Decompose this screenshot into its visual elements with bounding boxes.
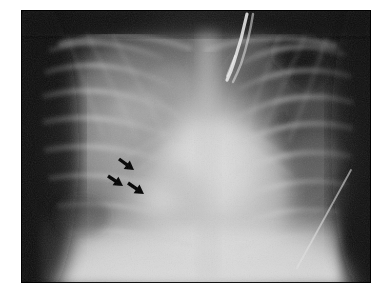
- chest-radiograph-image: [21, 10, 371, 283]
- figure-root: [0, 0, 389, 298]
- page-margin-bottom: [0, 283, 389, 298]
- page-margin-left: [0, 0, 21, 298]
- page-margin-top: [0, 0, 389, 10]
- film-grain-overlay: [21, 10, 371, 283]
- page-margin-right: [371, 0, 389, 298]
- radiograph-canvas: [21, 10, 371, 283]
